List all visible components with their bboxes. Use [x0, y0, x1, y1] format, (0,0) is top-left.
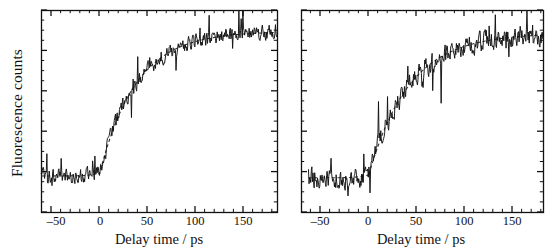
x-tick-label-50: 50: [410, 214, 423, 229]
x-tick-label-minus50: –50: [47, 214, 66, 229]
x-tick-label-minus50: –50: [311, 214, 330, 229]
left-fit-curve: [41, 32, 276, 176]
x-tick-label-150: 150: [234, 214, 253, 229]
figure-container: Fluorescence counts –50 0 50 100 150 Del…: [0, 0, 558, 252]
right-data-trace: [308, 11, 542, 196]
right-fit-curve: [308, 35, 542, 178]
x-tick-label-100: 100: [186, 214, 205, 229]
x-tick-label-0: 0: [97, 214, 103, 229]
left-data-trace: [41, 11, 276, 186]
x-tick-label-150: 150: [503, 214, 522, 229]
left-plot-panel: Fluorescence counts –50 0 50 100 150 Del…: [0, 0, 279, 252]
x-axis-label: Delay time / ps: [41, 231, 277, 248]
x-tick-label-50: 50: [141, 214, 154, 229]
left-plot-frame: [42, 11, 278, 213]
x-tick-label-0: 0: [365, 214, 371, 229]
x-tick-label-100: 100: [455, 214, 474, 229]
left-axis-ticks: [41, 10, 277, 212]
x-axis-label: Delay time / ps: [301, 231, 541, 248]
right-plot-panel: –50 0 50 100 150 Delay time / ps: [279, 0, 558, 252]
